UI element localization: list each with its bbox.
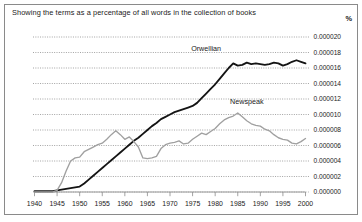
series-line-newspeak <box>35 113 306 192</box>
series-label-orwellian: Orwellian <box>191 44 221 53</box>
y-axis-tick-labels: 0.0000000.0000020.0000040.0000060.000008… <box>314 33 342 195</box>
x-tick-label: 1955 <box>95 200 110 207</box>
x-tick-label: 1945 <box>49 200 64 207</box>
x-tick-label: 1950 <box>72 200 87 207</box>
x-tick-label: 1940 <box>27 200 42 207</box>
y-tick-label: 0.000004 <box>314 157 342 164</box>
y-tick-label: 0.000008 <box>314 126 342 133</box>
series-line-orwellian <box>35 60 306 191</box>
x-axis <box>35 192 306 196</box>
data-series-group <box>35 60 306 192</box>
y-tick-label: 0.000020 <box>314 33 342 40</box>
series-label-newspeak: Newspeak <box>230 97 264 106</box>
x-tick-label: 1985 <box>230 200 245 207</box>
x-axis-tick-labels: 1940194519501955196019651970197519801985… <box>27 200 313 207</box>
y-tick-label: 0.000016 <box>314 64 342 71</box>
y-tick-label: 0.000018 <box>314 49 342 56</box>
x-tick-label: 1970 <box>162 200 177 207</box>
x-tick-label: 1980 <box>207 200 222 207</box>
y-tick-label: 0.000006 <box>314 142 342 149</box>
x-tick-label: 1965 <box>140 200 155 207</box>
x-tick-label: 2000 <box>298 200 313 207</box>
line-chart-plot: 0.0000000.0000020.0000040.0000060.000008… <box>0 0 362 222</box>
x-tick-label: 1960 <box>117 200 132 207</box>
chart-figure: Showing the terms as a percentage of all… <box>0 0 362 222</box>
y-tick-label: 0.000010 <box>314 111 342 118</box>
x-tick-label: 1975 <box>185 200 200 207</box>
x-tick-label: 1995 <box>275 200 290 207</box>
y-tick-label: 0.000012 <box>314 95 342 102</box>
y-tick-label: 0.000000 <box>314 188 342 195</box>
y-tick-label: 0.000014 <box>314 80 342 87</box>
y-tick-label: 0.000002 <box>314 173 342 180</box>
x-tick-label: 1990 <box>253 200 268 207</box>
